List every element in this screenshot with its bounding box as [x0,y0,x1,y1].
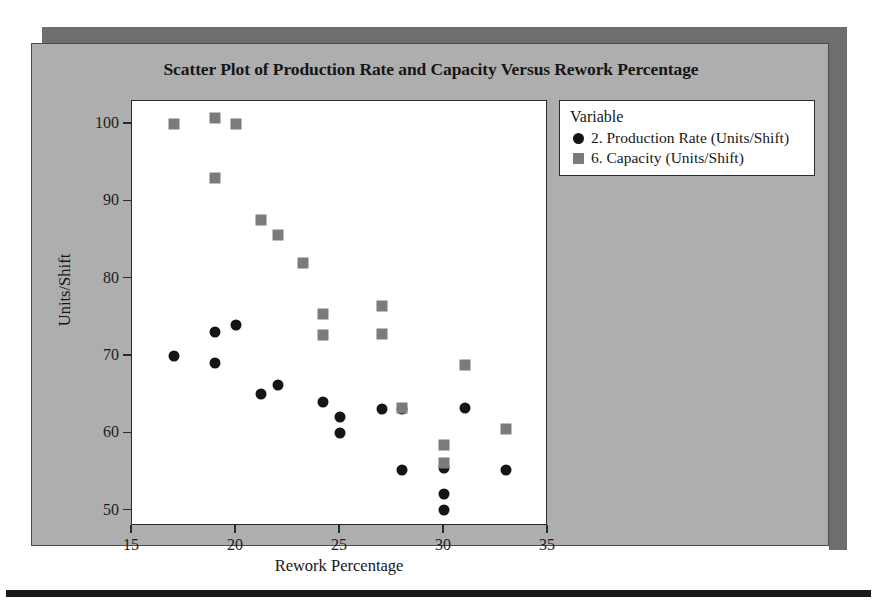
data-point [501,465,512,476]
x-axis-tick [338,525,340,533]
y-axis-tick-label: 60 [75,423,119,441]
data-point [210,173,221,184]
data-point [335,427,346,438]
data-point [501,424,512,435]
data-point [439,439,450,450]
y-axis-tick [123,277,131,279]
data-point [231,119,242,130]
data-point [255,215,266,226]
y-axis-tick [123,122,131,124]
legend-marker-circle-icon [569,133,587,144]
legend-item-production-rate[interactable]: 2. Production Rate (Units/Shift) [569,129,805,147]
y-axis-tick [123,354,131,356]
data-point [168,119,179,130]
data-point [272,380,283,391]
data-point [439,504,450,515]
data-point [335,412,346,423]
x-axis-tick [442,525,444,533]
data-point [459,402,470,413]
data-point [376,403,387,414]
data-point [318,396,329,407]
y-axis-tick-label: 70 [75,346,119,364]
x-axis-tick [130,525,132,533]
panel-top-shadow-band [42,27,847,43]
data-point [376,328,387,339]
x-axis-tick-label: 25 [331,536,347,554]
data-point [376,300,387,311]
chart-title: Scatter Plot of Production Rate and Capa… [32,59,830,80]
y-axis-title: Units/Shift [55,210,75,370]
legend-title: Variable [570,108,805,126]
data-point [272,229,283,240]
y-axis-tick-label: 50 [75,501,119,519]
data-point [439,458,450,469]
y-axis-tick-label: 100 [75,114,119,132]
figure-panel: Scatter Plot of Production Rate and Capa… [31,43,829,546]
data-point [168,351,179,362]
data-points-layer [132,101,546,524]
y-axis-tick-label: 80 [75,269,119,287]
data-point [210,357,221,368]
data-point [210,327,221,338]
data-point [318,330,329,341]
page-root: Scatter Plot of Production Rate and Capa… [0,0,877,612]
data-point [210,113,221,124]
x-axis-tick-label: 15 [123,536,139,554]
legend: Variable 2. Production Rate (Units/Shift… [559,100,815,176]
data-point [231,320,242,331]
data-point [397,402,408,413]
panel-right-shadow-band [829,27,847,550]
data-point [439,489,450,500]
data-point [397,465,408,476]
x-axis-title: Rework Percentage [131,556,547,576]
y-axis-tick [123,509,131,511]
x-axis-tick-label: 35 [539,536,555,554]
x-axis-tick-label: 30 [435,536,451,554]
bottom-divider-rule [6,590,871,597]
y-axis-tick-label: 90 [75,191,119,209]
legend-label-production-rate: 2. Production Rate (Units/Shift) [591,129,789,147]
data-point [255,388,266,399]
y-axis-tick [123,200,131,202]
data-point [297,258,308,269]
x-axis-tick [234,525,236,533]
x-axis-tick [546,525,548,533]
data-point [318,308,329,319]
legend-marker-square-icon [569,153,587,164]
legend-label-capacity: 6. Capacity (Units/Shift) [591,149,744,167]
x-axis-tick-label: 20 [227,536,243,554]
data-point [459,360,470,371]
y-axis-tick [123,432,131,434]
plot-area [131,100,547,525]
legend-item-capacity[interactable]: 6. Capacity (Units/Shift) [569,149,805,167]
